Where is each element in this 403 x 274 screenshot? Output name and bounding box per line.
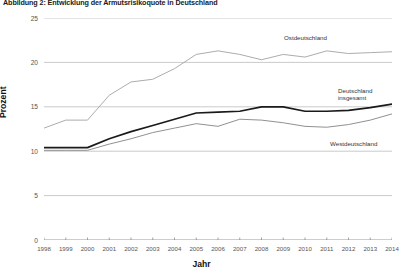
y-tick-label: 0 xyxy=(16,237,38,244)
plot-area xyxy=(44,18,392,240)
y-tick-label: 15 xyxy=(16,103,38,110)
x-tick-label: 2008 xyxy=(250,245,274,252)
x-tick-label: 2007 xyxy=(228,245,252,252)
x-tick-label: 2013 xyxy=(358,245,382,252)
x-tick-label: 2004 xyxy=(163,245,187,252)
x-tick-label: 2003 xyxy=(141,245,165,252)
x-tick-label: 2005 xyxy=(184,245,208,252)
figure-container: Abbildung 2: Entwicklung der Armutsrisik… xyxy=(0,0,403,274)
series-label-westdeutschland: Westdeutschland xyxy=(330,140,377,147)
x-tick-label: 1999 xyxy=(54,245,78,252)
x-tick-label: 2011 xyxy=(315,245,339,252)
y-tick-label: 5 xyxy=(16,192,38,199)
x-axis-label: Jahr xyxy=(0,259,403,269)
x-tick-label: 2010 xyxy=(293,245,317,252)
y-axis-label: Prozent xyxy=(0,86,8,118)
series-label-deutschland-insgesamt-line2: insgesamt xyxy=(338,94,366,101)
x-tick-label: 2009 xyxy=(271,245,295,252)
y-tick-label: 25 xyxy=(16,15,38,22)
chart-svg xyxy=(44,18,392,240)
x-tick-label: 2012 xyxy=(337,245,361,252)
x-tick-label: 2001 xyxy=(97,245,121,252)
y-tick-label: 20 xyxy=(16,59,38,66)
figure-title: Abbildung 2: Entwicklung der Armutsrisik… xyxy=(3,0,343,8)
x-tick-label: 2014 xyxy=(380,245,403,252)
x-tick-label: 2002 xyxy=(119,245,143,252)
x-tick-label: 2006 xyxy=(206,245,230,252)
series-label-ostdeutschland: Ostdeutschland xyxy=(284,34,327,41)
x-tick-label: 2000 xyxy=(76,245,100,252)
x-tick-label: 1998 xyxy=(32,245,56,252)
y-tick-label: 10 xyxy=(16,148,38,155)
